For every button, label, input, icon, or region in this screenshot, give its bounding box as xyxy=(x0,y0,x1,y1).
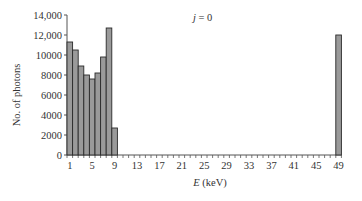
x-tick-label: 1 xyxy=(67,160,72,171)
x-axis-title: E (keV) xyxy=(192,177,227,189)
x-tick-label: 29 xyxy=(221,160,232,171)
photon-energy-histogram: 020004000600080001000012,00014,000 15913… xyxy=(0,0,362,201)
annotation-value: = 0 xyxy=(196,12,212,23)
x-tick-label: 17 xyxy=(154,160,165,171)
bar-e-3 xyxy=(78,66,84,155)
y-tick-label: 10000 xyxy=(36,50,62,61)
bar-e-6 xyxy=(95,73,101,155)
bar-e-8 xyxy=(106,28,112,155)
y-tick-label: 0 xyxy=(57,150,62,161)
bar-e-1 xyxy=(67,42,73,155)
y-tick-label: 12,000 xyxy=(33,30,62,41)
x-axis-unit: (keV) xyxy=(200,177,228,189)
x-tick-label: 33 xyxy=(244,160,255,171)
bar-e-49 xyxy=(336,35,342,155)
y-tick-label: 2000 xyxy=(41,130,62,141)
bar-e-4 xyxy=(84,75,90,155)
x-tick-label: 41 xyxy=(289,160,300,171)
x-tick-label: 13 xyxy=(132,160,143,171)
x-tick-label: 9 xyxy=(112,160,117,171)
x-tick-label: 37 xyxy=(266,160,277,171)
x-tick-label: 49 xyxy=(333,160,344,171)
x-tick-label: 21 xyxy=(177,160,188,171)
histogram-bars xyxy=(67,28,341,155)
y-tick-label: 4000 xyxy=(41,110,62,121)
annotation-j-equals-0: j = 0 xyxy=(191,12,212,23)
bar-e-2 xyxy=(73,50,79,155)
bar-e-5 xyxy=(89,79,95,155)
bar-e-9 xyxy=(112,128,118,155)
bar-e-7 xyxy=(101,57,107,155)
x-axis: 15913172125293337414549 xyxy=(67,155,344,171)
y-axis: 020004000600080001000012,00014,000 xyxy=(33,10,67,161)
y-tick-label: 8000 xyxy=(41,70,62,81)
y-tick-label: 6000 xyxy=(41,90,62,101)
x-tick-label: 5 xyxy=(90,160,95,171)
y-axis-title: No. of photons xyxy=(11,64,22,127)
x-tick-label: 25 xyxy=(199,160,210,171)
x-tick-label: 45 xyxy=(311,160,322,171)
y-tick-label: 14,000 xyxy=(33,10,62,21)
